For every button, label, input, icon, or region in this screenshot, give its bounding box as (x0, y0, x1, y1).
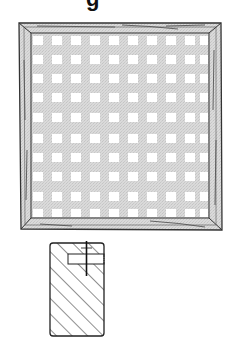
diagram-canvas (0, 0, 230, 358)
section-figure (50, 241, 104, 336)
frame-figure (19, 23, 222, 230)
